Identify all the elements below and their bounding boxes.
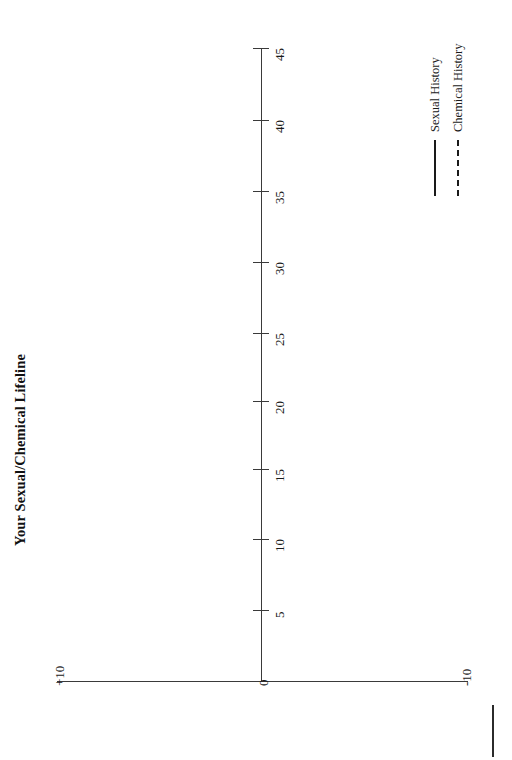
rating-label-origin: 0 <box>256 642 272 686</box>
legend-swatch-sexual-history <box>434 140 436 196</box>
age-tick-10 <box>253 539 269 540</box>
age-tick-20 <box>253 401 269 402</box>
legend-label-chemical-history: Chemical History <box>449 22 467 132</box>
age-tick-label-30: 30 <box>272 235 288 275</box>
age-tick-label-35: 35 <box>272 164 288 204</box>
age-tick-label-25: 25 <box>272 306 288 346</box>
age-tick-45 <box>253 48 269 49</box>
age-tick-label-5: 5 <box>272 578 288 618</box>
legend-swatch-chemical-history <box>457 140 459 196</box>
age-tick-15 <box>253 469 269 470</box>
rating-label-negative: -10 <box>459 642 475 686</box>
age-tick-35 <box>253 191 269 192</box>
age-tick-label-40: 40 <box>272 93 288 133</box>
rating-label-positive: +10 <box>52 642 68 686</box>
legend-label-sexual-history: Sexual History <box>426 22 444 132</box>
age-axis-line <box>261 48 262 681</box>
age-tick-label-20: 20 <box>272 374 288 414</box>
footer-rule <box>492 705 494 757</box>
age-tick-label-15: 15 <box>272 442 288 482</box>
age-tick-40 <box>253 120 269 121</box>
age-tick-label-10: 10 <box>272 512 288 552</box>
age-tick-label-45: 45 <box>272 21 288 61</box>
age-tick-25 <box>253 333 269 334</box>
worksheet-page: Your Sexual/Chemical Lifeline 5 10 15 20… <box>0 0 512 760</box>
age-tick-5 <box>253 610 269 611</box>
age-tick-30 <box>253 262 269 263</box>
chart-legend: Sexual History Chemical History <box>420 40 510 210</box>
